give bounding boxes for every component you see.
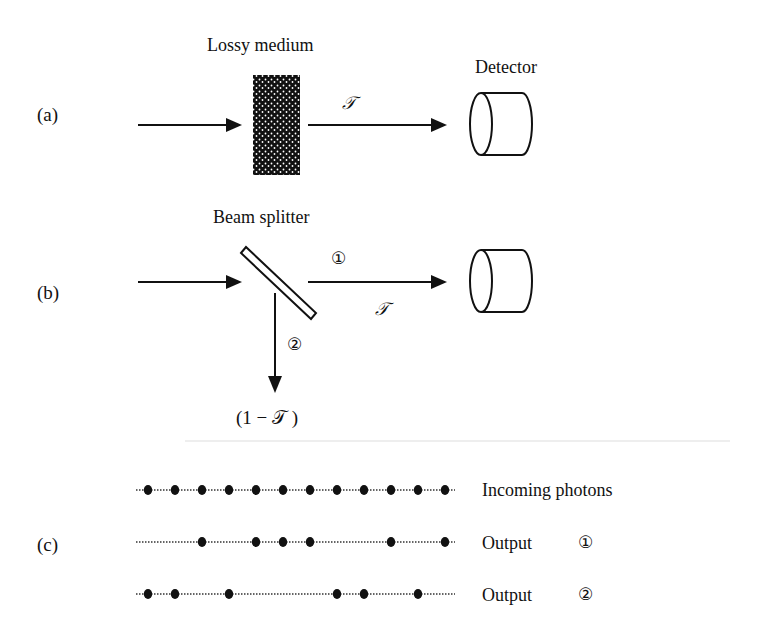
beam-splitter [241,247,316,319]
photon-dot [225,485,233,495]
photon-dot [279,485,287,495]
incoming-beam-arrow-a [138,118,242,132]
photon-dot [171,589,179,599]
photon-rows [136,485,455,599]
transmitted-beam-arrow-a [308,118,447,132]
photon-dot [441,537,449,547]
photon-dot [414,589,422,599]
diagram-canvas [0,0,759,635]
photon-dot [333,589,341,599]
lossy-medium [253,75,300,175]
transmitted-beam-arrow-b [308,275,447,289]
incoming-photons-row [136,485,455,495]
photon-dot [306,485,314,495]
photon-dot [306,537,314,547]
photon-dot [387,537,395,547]
photon-dot [225,589,233,599]
photon-dot [252,485,260,495]
photon-dot [360,485,368,495]
photon-dot [144,589,152,599]
photon-dot [198,537,206,547]
photon-dot [414,485,422,495]
reflected-beam-arrow [268,293,282,393]
photon-dot [387,485,395,495]
photon-dot [198,485,206,495]
photon-dot [441,485,449,495]
output1-row [136,537,455,547]
output2-row [136,589,455,599]
photon-dot [360,589,368,599]
photon-dot [171,485,179,495]
detector-icon-b [470,250,532,312]
photon-dot [144,485,152,495]
photon-dot [279,537,287,547]
photon-dot [252,537,260,547]
incoming-beam-arrow-b [138,275,242,289]
detector-icon-a [470,93,532,155]
photon-dot [333,485,341,495]
